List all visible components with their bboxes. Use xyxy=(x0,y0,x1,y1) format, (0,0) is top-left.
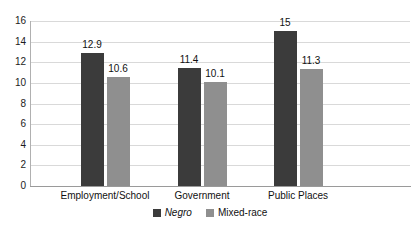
bar-chart: 1614121086420 12.910.611.410.11511.3 Emp… xyxy=(0,0,420,230)
y-axis-tick-label: 12 xyxy=(2,57,26,67)
grid-line xyxy=(30,21,410,22)
bar-value-label: 12.9 xyxy=(75,40,110,50)
bar xyxy=(178,68,201,186)
bar-value-label: 10.1 xyxy=(198,69,233,79)
legend-label: Mixed-race xyxy=(218,208,267,218)
y-axis-tick-label: 8 xyxy=(2,99,26,109)
legend-swatch-icon xyxy=(206,209,214,217)
bar-value-label: 15 xyxy=(268,18,303,28)
bar xyxy=(274,31,297,186)
y-axis-tick-label: 6 xyxy=(2,119,26,129)
y-axis-tick-label: 2 xyxy=(2,160,26,170)
x-axis-category-label: Public Places xyxy=(238,190,358,202)
bar xyxy=(204,82,227,186)
y-axis-tick-label: 0 xyxy=(2,181,26,191)
legend-label: Negro xyxy=(165,208,192,218)
y-axis-tick-labels: 1614121086420 xyxy=(0,21,26,186)
legend-item[interactable]: Mixed-race xyxy=(206,208,267,218)
legend-item[interactable]: Negro xyxy=(153,208,192,218)
y-axis-tick-label: 10 xyxy=(2,78,26,88)
y-axis-tick-label: 16 xyxy=(2,16,26,26)
y-axis-tick-label: 14 xyxy=(2,37,26,47)
chart-legend: NegroMixed-race xyxy=(0,208,420,218)
bar-value-label: 10.6 xyxy=(101,64,136,74)
plot-area: 12.910.611.410.11511.3 xyxy=(30,21,410,186)
x-axis-line xyxy=(30,186,411,187)
y-axis-tick-label: 4 xyxy=(2,140,26,150)
bar xyxy=(107,77,130,186)
bar xyxy=(300,69,323,186)
bar-value-label: 11.3 xyxy=(294,56,329,66)
bar-value-label: 11.4 xyxy=(172,55,207,65)
y-axis-line xyxy=(30,21,31,187)
legend-swatch-icon xyxy=(153,209,161,217)
